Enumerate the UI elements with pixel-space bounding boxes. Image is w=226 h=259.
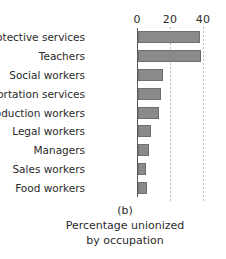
x-tick-label-40: 40 [196, 13, 210, 26]
bar [138, 88, 161, 100]
bar-container [138, 31, 200, 43]
bar [138, 144, 149, 156]
bar [138, 50, 201, 62]
bar-row: Food workers [0, 178, 226, 197]
category-label: Social workers [0, 69, 89, 81]
figure-caption: (b) Percentage unionized by occupation [0, 203, 226, 248]
bar-container [138, 182, 147, 194]
bar-row: Managers [0, 141, 226, 160]
caption-line-1: Percentage unionized [24, 218, 226, 233]
bar [138, 69, 163, 81]
bar-container [138, 50, 201, 62]
bar-row: Protective services [0, 28, 226, 47]
category-label: Protective services [0, 31, 89, 43]
caption-line-2: by occupation [24, 233, 226, 248]
plot-area: 0 20 40 Protective servicesTeachersSocia… [0, 0, 226, 200]
bar-container [138, 125, 151, 137]
bar-container [138, 144, 149, 156]
category-label: Food workers [0, 182, 89, 194]
bar-container [138, 163, 146, 175]
x-tick-label-20: 20 [163, 13, 177, 26]
bar-row: Sales workers [0, 160, 226, 179]
bar [138, 163, 146, 175]
category-label: Production workers [0, 107, 89, 119]
bar-chart-figure: 0 20 40 Protective servicesTeachersSocia… [0, 0, 226, 259]
bar-row: Transportation services [0, 84, 226, 103]
bar-container [138, 88, 161, 100]
bar-container [138, 69, 163, 81]
category-label: Managers [0, 144, 89, 156]
bar [138, 182, 147, 194]
x-axis-tick-labels: 0 20 40 [0, 13, 226, 27]
bar [138, 107, 159, 119]
category-label: Sales workers [0, 163, 89, 175]
category-label: Transportation services [0, 88, 89, 100]
bar-rows: Protective servicesTeachersSocial worker… [0, 28, 226, 197]
category-label: Teachers [0, 50, 89, 62]
category-label: Legal workers [0, 125, 89, 137]
bar [138, 31, 200, 43]
bar-row: Social workers [0, 66, 226, 85]
panel-label: (b) [24, 203, 226, 218]
bar-row: Production workers [0, 103, 226, 122]
bar-row: Legal workers [0, 122, 226, 141]
bar-container [138, 107, 159, 119]
bar-row: Teachers [0, 47, 226, 66]
x-tick-label-0: 0 [133, 13, 140, 26]
bar [138, 125, 151, 137]
